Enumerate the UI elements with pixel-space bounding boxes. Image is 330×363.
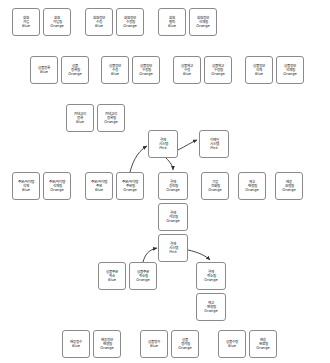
sticky-note[interactable]: 주문/아이템주문Blue xyxy=(85,172,113,200)
sticky-color-tag: Blue xyxy=(76,120,84,124)
sticky-color-tag: Orange xyxy=(166,188,179,192)
sticky-note[interactable]: 상품정보수정됨Orange xyxy=(132,56,160,84)
sticky-color-tag: Orange xyxy=(245,188,258,192)
sticky-note[interactable]: 주문/아이템삭제Blue xyxy=(12,172,40,200)
sticky-note[interactable]: 상품주문취소됨Orange xyxy=(129,262,157,290)
sticky-note[interactable]: 회원가입됨Orange xyxy=(43,8,71,36)
sticky-note[interactable]: 상품주문취소Blue xyxy=(98,262,126,290)
sticky-color-tag: Blue xyxy=(111,72,119,76)
sticky-note[interactable]: 배송완료됨Orange xyxy=(249,330,277,358)
sticky-note[interactable]: 상품등록Blue xyxy=(30,56,58,84)
sticky-color-tag: Blue xyxy=(40,70,48,74)
sticky-note[interactable]: 상품평가됨Orange xyxy=(171,330,199,358)
sticky-note[interactable]: 상품정보삭제됨Orange xyxy=(276,56,304,84)
sticky-note[interactable]: 결제시스템Pink xyxy=(148,130,178,158)
sticky-color-tag: Blue xyxy=(95,24,103,28)
sticky-note[interactable]: 회원탈퇴Blue xyxy=(158,8,186,36)
sticky-color-tag: Orange xyxy=(204,278,217,282)
sticky-note[interactable]: 회원정보수정됨Orange xyxy=(116,8,144,36)
sticky-note[interactable]: 상품등록됨Orange xyxy=(61,56,89,84)
sticky-note[interactable]: 배송정보변경됨Orange xyxy=(93,330,121,358)
sticky-color-tag: Orange xyxy=(123,188,136,192)
sticky-note[interactable]: 주문/아이템삭제됨Orange xyxy=(43,172,71,200)
sticky-color-tag: Blue xyxy=(168,24,176,28)
sticky-color-tag: Blue xyxy=(228,344,236,348)
sticky-note[interactable]: 회원정보수정Blue xyxy=(85,8,113,36)
event-storming-board: 회원가입Blue회원가입됨Orange회원정보수정Blue회원정보수정됨Oran… xyxy=(0,0,330,363)
sticky-note[interactable]: 배송접수Blue xyxy=(62,330,90,358)
sticky-color-tag: Orange xyxy=(282,188,295,192)
sticky-color-tag: Orange xyxy=(211,72,224,76)
sticky-color-tag: Pink xyxy=(169,250,176,254)
sticky-note[interactable]: 주문/아이템주문됨Orange xyxy=(116,172,144,200)
sticky-color-tag: Orange xyxy=(204,309,217,313)
sticky-color-tag: Orange xyxy=(139,72,152,76)
sticky-color-tag: Blue xyxy=(22,24,30,28)
sticky-color-tag: Orange xyxy=(283,72,296,76)
sticky-color-tag: Orange xyxy=(178,346,191,350)
order-placed-to-payment-system xyxy=(130,146,147,172)
sticky-note[interactable]: 상품정보삭제Blue xyxy=(245,56,273,84)
sticky-note[interactable]: 결제시스템Pink xyxy=(158,234,188,262)
sticky-color-tag: Orange xyxy=(50,188,63,192)
sticky-color-tag: Blue xyxy=(183,72,191,76)
sticky-color-tag: Orange xyxy=(166,219,179,223)
sticky-note[interactable]: 결제승인됨Orange xyxy=(158,172,188,200)
sticky-color-tag: Orange xyxy=(196,24,209,28)
sticky-color-tag: Pink xyxy=(159,146,166,150)
sticky-note[interactable]: 재고변경됨Orange xyxy=(196,293,226,321)
sticky-color-tag: Orange xyxy=(100,346,113,350)
payment-system-to-payment-cancelled xyxy=(188,250,210,260)
sticky-note[interactable]: 상품정보수정Blue xyxy=(101,56,129,84)
sticky-note[interactable]: 재고변경됨Orange xyxy=(238,172,266,200)
payment-system-to-email-system xyxy=(178,140,197,150)
sticky-note[interactable]: 상품평가Blue xyxy=(140,330,168,358)
sticky-color-tag: Orange xyxy=(123,24,136,28)
sticky-note[interactable]: 이메일시스템Pink xyxy=(199,130,229,158)
sticky-note[interactable]: 상품수령Blue xyxy=(218,330,246,358)
sticky-color-tag: Pink xyxy=(210,146,217,150)
sticky-color-tag: Orange xyxy=(208,188,221,192)
sticky-color-tag: Orange xyxy=(104,120,117,124)
sticky-color-tag: Blue xyxy=(150,344,158,348)
sticky-note[interactable]: 배송요청됨Orange xyxy=(275,172,303,200)
sticky-note[interactable]: 결제취소됨Orange xyxy=(196,262,226,290)
sticky-color-tag: Blue xyxy=(255,72,263,76)
sticky-note[interactable]: 카테고리등록Blue xyxy=(66,104,94,132)
sticky-color-tag: Blue xyxy=(95,188,103,192)
sticky-note[interactable]: 회원정보삭제됨Orange xyxy=(189,8,217,36)
payment-system-to-payment-approved xyxy=(166,158,173,170)
sticky-note[interactable]: 상품재고수정됨Orange xyxy=(204,56,232,84)
sticky-color-tag: Blue xyxy=(72,344,80,348)
sticky-note[interactable]: 기업전화됨Orange xyxy=(201,172,229,200)
sticky-note[interactable]: 상품재고수정Blue xyxy=(173,56,201,84)
order-cancelled-to-payment-system xyxy=(143,248,157,262)
sticky-color-tag: Orange xyxy=(68,72,81,76)
sticky-note[interactable]: 카테고리등록됨Orange xyxy=(97,104,125,132)
sticky-color-tag: Orange xyxy=(136,278,149,282)
sticky-note[interactable]: 결제거부됨Orange xyxy=(158,203,188,231)
sticky-color-tag: Orange xyxy=(50,24,63,28)
sticky-color-tag: Blue xyxy=(108,278,116,282)
sticky-color-tag: Orange xyxy=(256,346,269,350)
sticky-color-tag: Blue xyxy=(22,188,30,192)
sticky-note[interactable]: 회원가입Blue xyxy=(12,8,40,36)
